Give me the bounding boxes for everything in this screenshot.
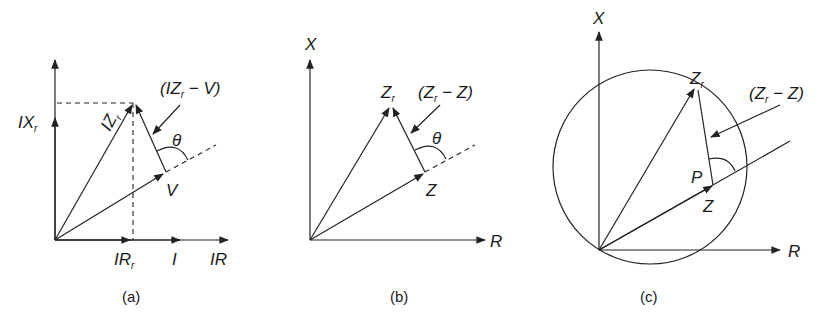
caption-c: (c) xyxy=(640,288,658,305)
izr-vector xyxy=(55,105,132,240)
difference-vector xyxy=(136,105,166,172)
label-z: Z xyxy=(425,181,437,200)
difference-vector xyxy=(393,108,425,172)
zr-vector xyxy=(599,89,694,250)
label-difference: (Zr − Z) xyxy=(418,83,473,104)
label-pointer-arrow xyxy=(711,105,780,137)
label-zr: Zr xyxy=(689,69,704,90)
label-ixr: IXr xyxy=(18,113,38,134)
label-theta: θ xyxy=(432,129,442,148)
angle-arc xyxy=(709,158,735,171)
label-v: V xyxy=(166,181,179,200)
label-x: X xyxy=(592,9,605,28)
panel-c: X Zr (Zr − Z) P Z R (c) xyxy=(553,9,804,305)
label-x: X xyxy=(304,35,317,54)
label-irr: IRr xyxy=(114,250,135,271)
z-extension xyxy=(425,145,475,172)
label-ir: IR xyxy=(210,250,227,269)
v-vector xyxy=(55,174,163,240)
z-vector xyxy=(599,186,712,250)
label-i: I xyxy=(172,250,177,269)
phasor-diagram-figure: IXr IZr (IZr − V) θ V IRr I IR (a) X Zr … xyxy=(0,0,838,333)
theta-arc xyxy=(415,146,446,159)
label-theta: θ xyxy=(172,131,182,150)
label-difference: (IZr − V) xyxy=(160,79,221,100)
label-pointer-arrow xyxy=(153,105,180,134)
panel-b: X Zr (Zr − Z) θ Z R (b) xyxy=(304,35,502,305)
label-zr: Zr xyxy=(380,83,395,104)
label-r: R xyxy=(490,232,502,251)
caption-a: (a) xyxy=(122,288,140,305)
panel-a: IXr IZr (IZr − V) θ V IRr I IR (a) xyxy=(18,60,228,305)
label-r: R xyxy=(788,242,800,261)
characteristic-circle xyxy=(553,70,747,264)
zr-vector xyxy=(310,108,389,240)
label-izr: IZr xyxy=(97,108,125,135)
caption-b: (b) xyxy=(390,288,408,305)
label-z: Z xyxy=(702,197,714,216)
label-p: P xyxy=(691,168,703,187)
z-vector xyxy=(310,174,423,240)
label-difference: (Zr − Z) xyxy=(749,84,804,105)
